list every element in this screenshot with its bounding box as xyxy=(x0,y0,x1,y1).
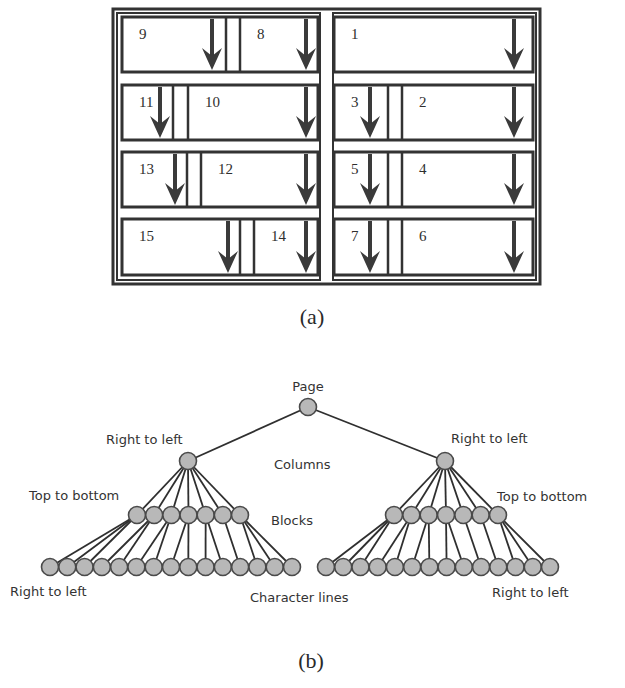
block-number: 5 xyxy=(351,161,359,177)
block-number: 3 xyxy=(351,94,359,110)
page-node xyxy=(300,399,317,416)
block-number: 10 xyxy=(205,94,220,110)
level-label: Character lines xyxy=(250,590,349,605)
direction-label: Right to left xyxy=(451,431,528,446)
block-node xyxy=(163,507,180,524)
block-row: 1 xyxy=(334,17,533,72)
block-row: 1312 xyxy=(122,152,318,207)
block-row: 76 xyxy=(334,219,533,275)
block-node xyxy=(180,507,197,524)
direction-label: Right to left xyxy=(492,585,569,600)
block-row: 1110 xyxy=(122,85,318,140)
figure-b-reading-order-tree: PageColumnsBlocksCharacter linesRight to… xyxy=(10,379,587,605)
character-line-node xyxy=(369,559,386,576)
character-line-node xyxy=(76,559,93,576)
block-node xyxy=(197,507,214,524)
block-node xyxy=(386,507,403,524)
edge-column-to-block xyxy=(188,461,240,515)
block-node xyxy=(455,507,472,524)
block-node xyxy=(146,507,163,524)
direction-label: Top to bottom xyxy=(28,488,119,503)
level-label: Columns xyxy=(274,457,331,472)
character-line-node xyxy=(197,559,214,576)
block-node xyxy=(232,507,249,524)
edge-page-to-column xyxy=(308,407,445,461)
level-label: Blocks xyxy=(271,513,313,528)
caption-b: (b) xyxy=(298,648,324,674)
block-number: 11 xyxy=(139,94,153,110)
edge-block-to-line xyxy=(343,515,394,567)
row-box xyxy=(334,17,533,72)
block-number: 9 xyxy=(139,26,147,42)
character-line-node xyxy=(352,559,369,576)
block-node xyxy=(472,507,489,524)
character-line-node xyxy=(507,559,524,576)
block-number: 6 xyxy=(419,228,427,244)
edge-page-to-column xyxy=(188,407,308,461)
block-node xyxy=(490,507,507,524)
block-node xyxy=(438,507,455,524)
block-row: 54 xyxy=(334,152,533,207)
character-line-node xyxy=(542,559,559,576)
direction-label: Top to bottom xyxy=(496,489,587,504)
caption-a: (a) xyxy=(300,304,324,330)
edge-column-to-block xyxy=(445,461,498,515)
direction-label: Right to left xyxy=(10,584,87,599)
column-node xyxy=(180,453,197,470)
character-line-node xyxy=(404,559,421,576)
block-number: 15 xyxy=(139,228,154,244)
block-number: 2 xyxy=(419,94,427,110)
block-node xyxy=(420,507,437,524)
left-column: 98111013121514 xyxy=(117,13,320,280)
character-line-node xyxy=(318,559,335,576)
block-row: 98 xyxy=(122,17,318,72)
block-row: 32 xyxy=(334,85,533,140)
block-node xyxy=(214,507,231,524)
character-line-node xyxy=(266,559,283,576)
block-number: 14 xyxy=(271,228,287,244)
character-line-node xyxy=(249,559,266,576)
figure-a-page-layout: 981110131215141325476 xyxy=(113,9,540,284)
page-label: Page xyxy=(292,379,323,394)
block-number: 4 xyxy=(419,161,427,177)
block-number: 1 xyxy=(351,26,359,42)
block-number: 7 xyxy=(351,228,359,244)
right-column: 1325476 xyxy=(333,13,536,280)
block-number: 8 xyxy=(257,26,265,42)
character-line-node xyxy=(524,559,541,576)
character-line-node xyxy=(111,559,128,576)
row-box xyxy=(334,219,533,275)
character-line-node xyxy=(232,559,249,576)
character-line-node xyxy=(455,559,472,576)
character-line-node xyxy=(59,559,76,576)
character-line-node xyxy=(214,559,231,576)
character-line-node xyxy=(421,559,438,576)
figure-canvas: 981110131215141325476 PageColumnsBlocksC… xyxy=(0,0,625,688)
block-node xyxy=(129,507,146,524)
character-line-node xyxy=(163,559,180,576)
block-row: 1514 xyxy=(122,219,318,275)
character-line-node xyxy=(42,559,59,576)
block-node xyxy=(403,507,420,524)
character-line-node xyxy=(438,559,455,576)
character-line-node xyxy=(145,559,162,576)
character-line-node xyxy=(284,559,301,576)
block-number: 12 xyxy=(218,161,233,177)
block-number: 13 xyxy=(139,161,154,177)
row-box xyxy=(334,152,533,207)
character-line-node xyxy=(490,559,507,576)
row-box xyxy=(334,85,533,140)
character-line-node xyxy=(180,559,197,576)
row-box xyxy=(122,17,318,72)
direction-label: Right to left xyxy=(106,432,183,447)
character-line-node xyxy=(93,559,110,576)
character-line-node xyxy=(335,559,352,576)
character-line-node xyxy=(473,559,490,576)
character-line-node xyxy=(386,559,403,576)
column-node xyxy=(437,453,454,470)
edge-block-to-line xyxy=(498,515,550,567)
character-line-node xyxy=(128,559,145,576)
